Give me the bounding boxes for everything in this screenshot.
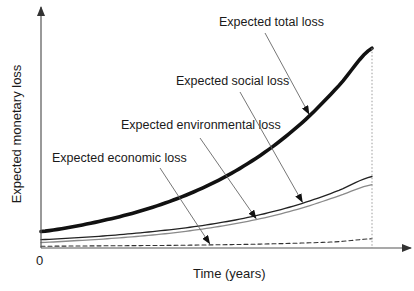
- x-tick-label: 0: [36, 253, 43, 268]
- annotation-arrow: [240, 92, 302, 202]
- series-line-expected-environmental-loss: [41, 185, 372, 243]
- annotation-label-economic: Expected economic loss: [52, 151, 187, 165]
- annotation-arrow: [200, 138, 256, 219]
- annotation-label-social: Expected social loss: [176, 74, 289, 88]
- y-axis-label: Expected monetary loss: [9, 64, 24, 203]
- annotation-arrow: [160, 168, 210, 244]
- annotation-label-total: Expected total loss: [219, 15, 324, 29]
- loss-chart: 0 Time (years) Expected monetary loss Ex…: [0, 0, 414, 291]
- annotation-label-environmental: Expected environmental loss: [121, 118, 281, 132]
- x-axis-label: Time (years): [193, 266, 265, 281]
